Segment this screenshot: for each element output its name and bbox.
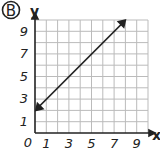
- svg-text:7: 7: [20, 46, 29, 61]
- svg-text:3: 3: [20, 91, 28, 106]
- svg-text:9: 9: [20, 24, 28, 39]
- svg-text:7: 7: [110, 136, 119, 151]
- svg-text:1: 1: [42, 136, 50, 151]
- x-axis-label: x: [152, 127, 160, 143]
- origin-label: 0: [24, 135, 32, 150]
- svg-text:3: 3: [65, 136, 73, 151]
- option-badge: B: [3, 2, 20, 20]
- badge-letter: B: [6, 2, 16, 20]
- grid: [35, 20, 148, 133]
- y-axis-label: y: [30, 3, 39, 19]
- svg-text:1: 1: [20, 114, 28, 129]
- svg-text:5: 5: [87, 136, 95, 151]
- svg-text:5: 5: [20, 69, 28, 84]
- x-tick-labels: 1 3 5 7 9: [42, 136, 141, 151]
- svg-text:9: 9: [133, 136, 141, 151]
- coordinate-graph: B y x 9 7 5 3 1: [0, 0, 160, 156]
- y-tick-labels: 9 7 5 3 1: [20, 24, 29, 130]
